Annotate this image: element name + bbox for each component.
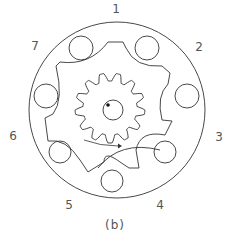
port-label-1: 1 <box>112 3 120 15</box>
figure-caption: (b) <box>105 219 125 231</box>
port-label-2: 2 <box>195 41 203 53</box>
outer-rotor <box>45 42 172 172</box>
bolt-hole <box>154 141 176 163</box>
bolt-hole <box>175 84 199 108</box>
port-label-6: 6 <box>9 130 17 142</box>
inner-gear <box>75 74 145 143</box>
gear-pump-diagram <box>0 0 236 247</box>
shaft-hole <box>103 100 123 120</box>
bolt-hole <box>69 36 93 60</box>
bolt-hole <box>101 170 123 192</box>
port-label-3: 3 <box>215 131 223 143</box>
port-label-7: 7 <box>31 40 39 52</box>
port-label-4: 4 <box>156 199 164 211</box>
inner-rotor-lobe-curve <box>98 147 160 168</box>
rotation-arrowhead-icon <box>118 144 122 149</box>
bolt-hole <box>135 36 159 60</box>
bolt-holes <box>34 36 199 192</box>
bolt-hole <box>34 84 58 108</box>
shaft-center-dot <box>106 103 110 107</box>
bolt-hole <box>49 141 71 163</box>
port-label-5: 5 <box>65 199 73 211</box>
